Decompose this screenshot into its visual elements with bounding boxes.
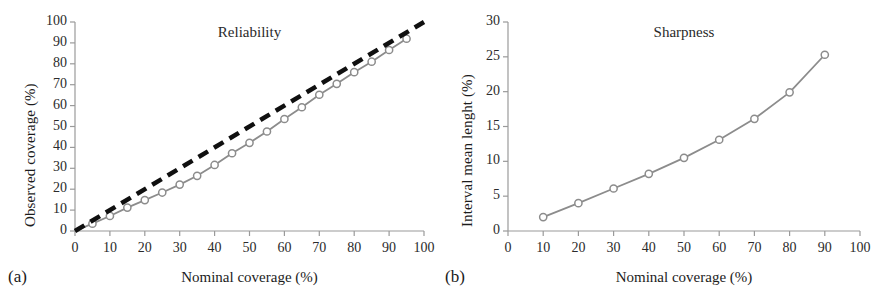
- panel-a-ytick-60: 60: [23, 97, 67, 113]
- panel-b-x-axis-title: Nominal coverage (%): [564, 269, 804, 286]
- panel-a-ytick-80: 80: [23, 55, 67, 71]
- panel-b-ytick-30: 30: [456, 13, 500, 29]
- panel-a-label: (a): [8, 267, 27, 287]
- figure-two-panel-chart: Reliability Observed coverage (%) Nomina…: [0, 0, 882, 305]
- panel-b-sharpness: Sharpness Interval mean lenght (%) Nomin…: [441, 0, 882, 305]
- panel-b-title: Sharpness: [574, 24, 794, 41]
- panel-a-ytick-30: 30: [23, 159, 67, 175]
- panel-b-ytick-20: 20: [456, 83, 500, 99]
- panel-a-ytick-100: 100: [23, 13, 67, 29]
- panel-a-ytick-10: 10: [23, 201, 67, 217]
- panel-b-ytick-10: 10: [456, 152, 500, 168]
- panel-b-ytick-15: 15: [456, 118, 500, 134]
- panel-b-xtick-100: 100: [835, 240, 882, 256]
- panel-a-ytick-20: 20: [23, 180, 67, 196]
- panel-b-ytick-5: 5: [456, 187, 500, 203]
- panel-a-ytick-50: 50: [23, 118, 67, 134]
- panel-b-ytick-0: 0: [456, 222, 500, 238]
- panel-a-title: Reliability: [140, 24, 360, 41]
- panel-b-ytick-25: 25: [456, 48, 500, 64]
- panel-a-x-axis-title: Nominal coverage (%): [130, 269, 370, 286]
- panel-a-reliability: Reliability Observed coverage (%) Nomina…: [0, 0, 441, 305]
- panel-a-ytick-0: 0: [23, 222, 67, 238]
- panel-b-plot: [441, 0, 882, 305]
- panel-b-label: (b): [445, 267, 465, 287]
- panel-a-ytick-90: 90: [23, 34, 67, 50]
- panel-a-ytick-40: 40: [23, 138, 67, 154]
- panel-a-ytick-70: 70: [23, 76, 67, 92]
